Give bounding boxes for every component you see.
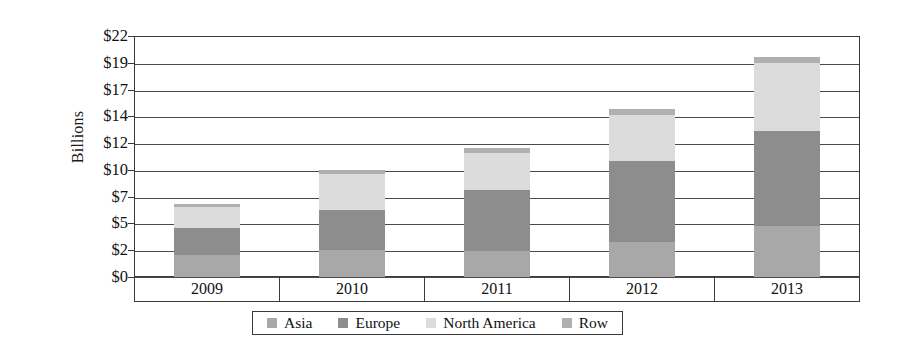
x-axis-label-2011: 2011: [425, 277, 570, 301]
x-axis-categories: 20092010201120122013: [134, 277, 860, 302]
gridline: [135, 224, 859, 225]
legend-item-row: Row: [562, 314, 608, 332]
y-axis-tick-label: $22: [64, 28, 128, 45]
chart-legend: AsiaEuropeNorth AmericaRow: [252, 311, 623, 335]
legend-swatch-icon: [338, 318, 348, 328]
legend-label: Europe: [355, 314, 400, 332]
legend-item-asia: Asia: [267, 314, 312, 332]
gridline: [135, 64, 859, 65]
legend-swatch-icon: [267, 318, 277, 328]
y-axis-tick-label: $2: [64, 242, 128, 259]
gridline: [135, 144, 859, 145]
y-axis-tick-labels: $22$19$17$14$12$10$7$5$2$0: [58, 36, 128, 277]
legend-label: Asia: [284, 314, 312, 332]
legend-swatch-icon: [562, 318, 572, 328]
gridline: [135, 117, 859, 118]
x-axis-label-2013: 2013: [715, 277, 859, 301]
y-axis-tick-label: $7: [64, 189, 128, 206]
gridline: [135, 198, 859, 199]
gridline: [135, 91, 859, 92]
x-axis-label-2012: 2012: [570, 277, 715, 301]
stacked-bar-chart: Billions $22$19$17$14$12$10$7$5$2$0 2009…: [0, 0, 908, 358]
legend-label: North America: [443, 314, 536, 332]
plot-area: [134, 36, 860, 277]
y-axis-tick-label: $0: [64, 269, 128, 286]
legend-item-north-america: North America: [426, 314, 536, 332]
x-axis-label-2010: 2010: [280, 277, 425, 301]
gridline: [135, 251, 859, 252]
x-axis-label-2009: 2009: [135, 277, 280, 301]
legend-swatch-icon: [426, 318, 436, 328]
y-axis-tick-label: $19: [64, 55, 128, 72]
legend-label: Row: [579, 314, 608, 332]
y-axis-tick-label: $12: [64, 135, 128, 152]
gridline: [135, 171, 859, 172]
y-axis-tick-label: $14: [64, 108, 128, 125]
legend-item-europe: Europe: [338, 314, 400, 332]
y-axis-tick-label: $10: [64, 162, 128, 179]
y-axis-tick-label: $5: [64, 215, 128, 232]
y-axis-tick-label: $17: [64, 82, 128, 99]
